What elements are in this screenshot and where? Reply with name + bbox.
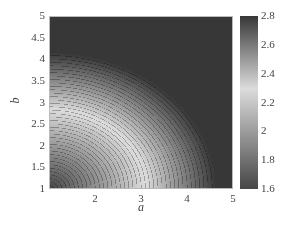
y-tick-label: 3.5 xyxy=(15,75,45,86)
y-tick-label: 2 xyxy=(15,140,45,151)
y-tick-label: 2.5 xyxy=(15,118,45,129)
y-tick-label: 1.5 xyxy=(15,161,45,172)
x-axis-label: a xyxy=(138,200,144,215)
x-tick-label: 5 xyxy=(223,193,243,204)
colorbar-tick-label: 2.8 xyxy=(261,10,275,21)
colorbar-tick-label: 1.8 xyxy=(261,154,275,165)
contour-canvas xyxy=(49,16,233,189)
colorbar-tick-label: 2.4 xyxy=(261,68,275,79)
y-tick-label: 4.5 xyxy=(15,32,45,43)
y-tick-label: 1 xyxy=(15,183,45,194)
colorbar xyxy=(240,16,258,189)
colorbar-tick-label: 1.6 xyxy=(261,183,275,194)
colorbar-tick-label: 2.6 xyxy=(261,39,275,50)
y-tick-label: 5 xyxy=(15,10,45,21)
x-tick-label: 2 xyxy=(85,193,105,204)
y-axis-label: b xyxy=(8,98,23,104)
colorbar-tick-label: 2 xyxy=(261,125,267,136)
colorbar-canvas xyxy=(240,16,258,189)
contour-plot-area xyxy=(49,16,233,189)
y-tick-label: 4 xyxy=(15,53,45,64)
colorbar-tick-label: 2.2 xyxy=(261,97,275,108)
x-tick-label: 4 xyxy=(177,193,197,204)
